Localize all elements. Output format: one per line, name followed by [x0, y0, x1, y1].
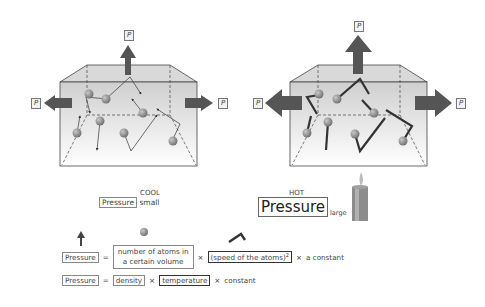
equation-1: Pressure = number of atoms in a certain …: [62, 245, 344, 269]
eq1-term-speed: (speed of the atoms)2: [208, 251, 292, 263]
eq2-constant: constant: [224, 276, 255, 285]
eq1-term-atoms-line1: number of atoms in: [118, 247, 189, 256]
cool-force-label-left: P: [31, 98, 41, 109]
eq1-equals: =: [103, 253, 109, 262]
cool-container: [60, 65, 197, 166]
up-arrow-icon: [77, 231, 85, 246]
hot-force-label-top: P: [354, 21, 364, 32]
eq2-equals: =: [103, 276, 109, 285]
cool-force-label-right: P: [218, 98, 228, 109]
eq1-term-atoms-line2: a certain volume: [123, 257, 184, 266]
speed-path-icon: [229, 234, 245, 242]
eq1-constant: a constant: [306, 253, 344, 262]
eq2-term-temperature: temperature: [159, 275, 210, 286]
eq1-term-atoms: number of atoms in a certain volume: [113, 245, 194, 269]
hot-pressure-word: Pressure: [258, 197, 328, 217]
hot-caption-title: HOT: [289, 189, 304, 197]
hot-pressure-size: large: [330, 209, 346, 217]
eq1-lhs: Pressure: [62, 252, 99, 263]
candle-icon: [352, 172, 368, 221]
equation-icons: [77, 228, 245, 246]
eq2-term-density: density: [113, 275, 145, 286]
cool-pressure-caption: Pressure small: [99, 198, 159, 207]
atom-icon: [140, 228, 148, 236]
eq2-times-1: ×: [149, 276, 155, 285]
equation-2: Pressure = density × temperature × const…: [62, 275, 256, 286]
eq2-times-2: ×: [214, 276, 220, 285]
eq1-times-1: ×: [198, 253, 204, 262]
eq1-times-2: ×: [296, 253, 302, 262]
eq1-term-speed-exponent: 2: [286, 252, 289, 258]
hot-force-label-left: P: [253, 98, 263, 109]
hot-pressure-caption: Pressure large: [258, 197, 347, 217]
eq2-lhs: Pressure: [62, 275, 99, 286]
cool-pressure-word: Pressure: [99, 197, 137, 208]
cool-caption-title: COOL: [140, 189, 160, 197]
eq1-term-speed-text: (speed of the atoms): [211, 253, 286, 262]
hot-force-label-right: P: [456, 98, 466, 109]
cool-pressure-size: small: [139, 198, 159, 207]
cool-force-label-top: P: [124, 30, 134, 41]
